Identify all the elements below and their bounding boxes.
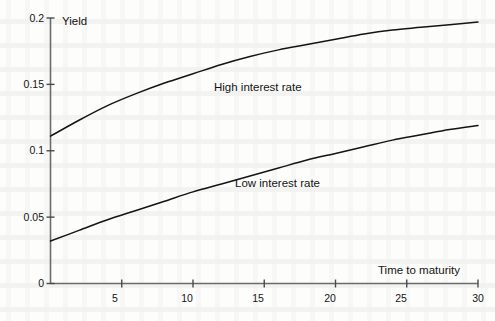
- chart-series-group: [51, 22, 479, 241]
- y-axis-title: Yield: [62, 15, 87, 27]
- series-label-high-interest-rate: High interest rate: [214, 81, 302, 93]
- x-tick-label-5: 5: [101, 292, 129, 304]
- chart-figure: 0.2 0.15 0.1 0.05 0 5 10 15 20 25 30 Yie…: [0, 0, 495, 321]
- y-tick-label-0.15: 0.15: [8, 78, 44, 90]
- x-tick-label-30: 30: [464, 292, 492, 304]
- x-tick-label-10: 10: [173, 292, 201, 304]
- y-tick-label-0: 0: [8, 277, 44, 289]
- x-tick-label-20: 20: [316, 292, 344, 304]
- x-tick-label-15: 15: [244, 292, 272, 304]
- series-line-high-interest-rate: [51, 22, 479, 136]
- series-label-low-interest-rate: Low interest rate: [235, 177, 320, 189]
- x-tick-label-25: 25: [387, 292, 415, 304]
- y-tick-label-0.05: 0.05: [8, 211, 44, 223]
- x-axis-title: Time to maturity: [378, 264, 460, 276]
- y-tick-label-0.2: 0.2: [8, 12, 44, 24]
- y-tick-label-0.1: 0.1: [8, 144, 44, 156]
